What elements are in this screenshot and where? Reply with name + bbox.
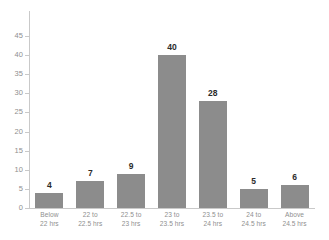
bar-group[interactable]: 6Above24.5 hrs (274, 0, 315, 240)
x-category-label-line: 23.5 to (192, 211, 233, 220)
x-category-label-line: 22.5 to (111, 211, 152, 220)
bar-group[interactable]: 4Below22 hrs (29, 0, 70, 240)
bar[interactable] (117, 174, 145, 208)
x-category-label: Above24.5 hrs (274, 211, 315, 228)
bar-group[interactable]: 524 to24.5 hrs (233, 0, 274, 240)
bar-value-label: 5 (233, 177, 274, 186)
bar-group[interactable]: 922.5 to23 hrs (111, 0, 152, 240)
bar[interactable] (35, 193, 63, 208)
x-category-label-line: 24 hrs (192, 220, 233, 229)
bar[interactable] (76, 181, 104, 208)
x-category-label-line: 22 hrs (29, 220, 70, 229)
bar-value-label: 4 (29, 181, 70, 190)
x-category-label-line: 24.5 hrs (233, 220, 274, 229)
bar[interactable] (281, 185, 309, 208)
x-category-label: 23 to23.5 hrs (152, 211, 193, 228)
x-category-label: Below22 hrs (29, 211, 70, 228)
x-category-label-line: 23 hrs (111, 220, 152, 229)
bar-value-label: 28 (192, 89, 233, 98)
x-category-label-line: 22 to (70, 211, 111, 220)
bar-group[interactable]: 2823.5 to24 hrs (192, 0, 233, 240)
bars-layer: 4Below22 hrs722 to22.5 hrs922.5 to23 hrs… (0, 0, 329, 240)
bar-value-label: 9 (111, 162, 152, 171)
x-category-label-line: 24 to (233, 211, 274, 220)
bar-value-label: 7 (70, 169, 111, 178)
x-category-label: 23.5 to24 hrs (192, 211, 233, 228)
x-category-label-line: 23 to (152, 211, 193, 220)
bar[interactable] (240, 189, 268, 208)
bar-group[interactable]: 722 to22.5 hrs (70, 0, 111, 240)
bar[interactable] (158, 55, 186, 208)
x-category-label: 24 to24.5 hrs (233, 211, 274, 228)
x-category-label: 22.5 to23 hrs (111, 211, 152, 228)
bar-chart: 051015202530354045 4Below22 hrs722 to22.… (0, 0, 329, 240)
bar-group[interactable]: 4023 to23.5 hrs (152, 0, 193, 240)
x-category-label-line: 24.5 hrs (274, 220, 315, 229)
x-category-label-line: 22.5 hrs (70, 220, 111, 229)
x-category-label: 22 to22.5 hrs (70, 211, 111, 228)
x-category-label-line: Above (274, 211, 315, 220)
x-category-label-line: 23.5 hrs (152, 220, 193, 229)
bar-value-label: 6 (274, 173, 315, 182)
bar-value-label: 40 (152, 43, 193, 52)
x-category-label-line: Below (29, 211, 70, 220)
bar[interactable] (199, 101, 227, 208)
